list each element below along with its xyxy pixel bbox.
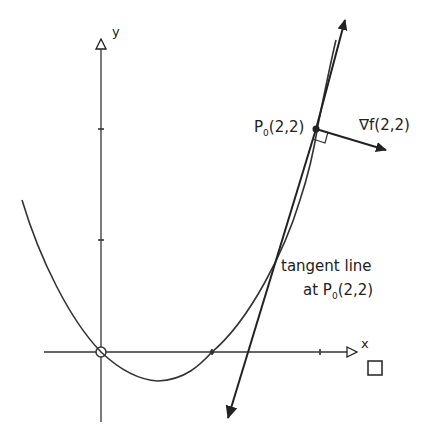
y-axis: [98, 40, 104, 422]
x-axis-label: x: [361, 336, 369, 351]
x-axis: [44, 349, 356, 355]
end-box-symbol: [368, 361, 382, 375]
gradient-label: ∇f(2,2): [358, 116, 410, 134]
diagram-canvas: x y P0(2,2) ∇f(2,2) tangent line at P0(2…: [0, 0, 445, 448]
level-curve: [22, 40, 336, 381]
curve-point: [210, 350, 214, 354]
y-axis-label: y: [112, 24, 120, 39]
point-p0-label: P0(2,2): [254, 118, 304, 138]
tangent-label-line2: at P0(2,2): [303, 281, 373, 301]
tangent-line-upper: [316, 20, 345, 129]
tangent-label-line1: tangent line: [281, 257, 372, 275]
